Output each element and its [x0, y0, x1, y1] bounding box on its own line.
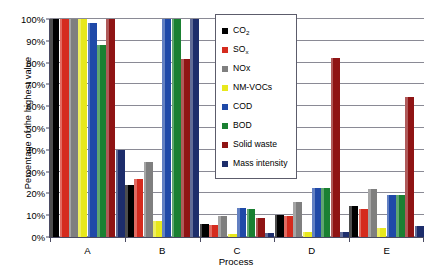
legend-label: NM-VOCs [233, 83, 272, 92]
bar-highlight [106, 19, 109, 237]
x-tick-mark [50, 237, 51, 242]
bar [359, 209, 368, 237]
x-tick-label: B [125, 245, 200, 256]
bar-highlight [200, 224, 203, 237]
bar-highlight [331, 58, 334, 237]
bar-highlight [97, 45, 100, 237]
bar-highlight [387, 195, 390, 238]
bar-highlight [396, 195, 399, 238]
bar-highlight [312, 188, 315, 237]
bar-highlight [368, 189, 371, 237]
bar [97, 45, 106, 237]
legend-swatch-icon [222, 85, 228, 91]
bar-highlight [349, 206, 352, 237]
bar [172, 19, 181, 237]
bar-highlight [275, 215, 278, 237]
bar [134, 179, 143, 237]
legend-swatch-icon [222, 161, 228, 167]
bar-highlight [284, 216, 287, 237]
bar [303, 232, 312, 237]
legend-item[interactable]: CO2 [222, 21, 291, 40]
bar [377, 228, 386, 237]
bar-highlight [209, 225, 212, 237]
x-tick-label: A [50, 245, 125, 256]
bar-highlight [293, 202, 296, 237]
bar [247, 209, 256, 237]
y-tick-label: 0% [31, 232, 45, 243]
bar [265, 233, 274, 237]
bar [396, 195, 405, 238]
legend-swatch-icon [222, 28, 228, 34]
x-tick-mark [349, 237, 350, 242]
bar [60, 19, 69, 237]
x-tick-label: E [349, 245, 424, 256]
y-tick-label: 20% [26, 188, 45, 199]
bar-highlight [69, 19, 72, 237]
legend-item[interactable]: BOD [222, 116, 291, 135]
bar [200, 224, 209, 237]
bar [181, 59, 190, 237]
bar [415, 226, 424, 237]
bar-group: B [125, 19, 200, 237]
y-tick-label: 90% [26, 35, 45, 46]
bar-highlight [228, 234, 231, 237]
y-tick-label: 30% [26, 166, 45, 177]
bar-highlight [88, 23, 91, 237]
bar [368, 189, 377, 237]
legend-item[interactable]: COD [222, 97, 291, 116]
legend-item[interactable]: Mass intensity [222, 154, 291, 173]
y-tick-label: 10% [26, 210, 45, 221]
bar [293, 202, 302, 237]
bar-highlight [153, 221, 156, 237]
bar [312, 188, 321, 237]
legend-label: CO2 [233, 26, 249, 35]
bar [331, 58, 340, 237]
bar [153, 221, 162, 237]
bar [321, 188, 330, 237]
x-tick-label: C [200, 245, 275, 256]
x-tick-mark [423, 237, 424, 242]
bar-highlight [172, 19, 175, 237]
y-tick-label: 70% [26, 79, 45, 90]
legend-label: BOD [233, 121, 252, 130]
legend-item[interactable]: NOx [222, 59, 291, 78]
bar-highlight [405, 97, 408, 237]
bar-group: A [50, 19, 125, 237]
y-tick-label: 60% [26, 101, 45, 112]
bar-highlight [125, 185, 128, 237]
bar-highlight [265, 233, 268, 237]
bar [218, 216, 227, 237]
bar-group-bars [125, 19, 200, 237]
bar-highlight [415, 226, 418, 237]
bar-highlight [218, 216, 221, 237]
bar-highlight [340, 232, 343, 237]
bar [340, 232, 349, 237]
legend-item[interactable]: SOx [222, 40, 291, 59]
bar-highlight [144, 162, 147, 237]
legend-swatch-icon [222, 104, 228, 110]
bar-highlight [237, 208, 240, 237]
y-tick-label: 50% [26, 123, 45, 134]
bar [144, 162, 153, 237]
legend-label: NOx [233, 64, 250, 73]
bar-group-bars [50, 19, 125, 237]
legend: CO2SOxNOxNM-VOCsCODBODSolid wasteMass in… [215, 14, 297, 179]
x-axis-title: Process [49, 256, 423, 267]
legend-item[interactable]: NM-VOCs [222, 78, 291, 97]
bar-chart: Percentage of the highest value 0%10%20%… [0, 0, 436, 276]
bar [387, 195, 396, 238]
bar [190, 19, 199, 237]
bar [256, 218, 265, 237]
bar-highlight [303, 232, 306, 237]
bar [162, 19, 171, 237]
legend-label: SOx [233, 45, 249, 54]
legend-swatch-icon [222, 47, 228, 53]
bar [275, 215, 284, 237]
legend-item[interactable]: Solid waste [222, 135, 291, 154]
bar [78, 19, 87, 237]
bar-highlight [256, 218, 259, 237]
y-tick-label: 40% [26, 144, 45, 155]
bar-group-bars [349, 19, 424, 237]
bar-highlight [60, 19, 63, 237]
y-tick-label: 100% [21, 14, 45, 25]
